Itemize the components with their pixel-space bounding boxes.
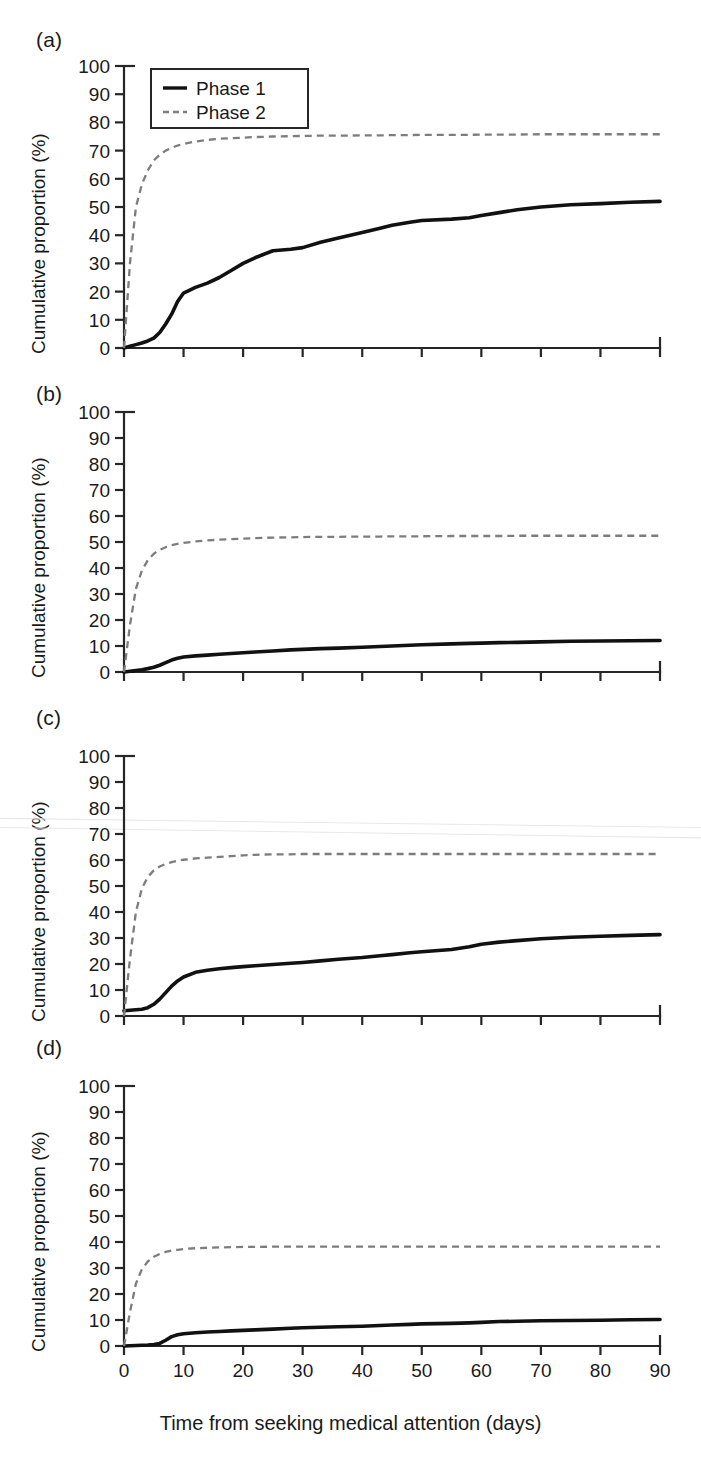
series-line-phase-2 <box>124 854 660 1016</box>
y-tick-label: 80 <box>89 454 110 475</box>
y-tick-label: 30 <box>89 253 110 274</box>
y-tick-label: 90 <box>89 84 110 105</box>
y-tick-label: 50 <box>89 532 110 553</box>
y-tick-label: 20 <box>89 954 110 975</box>
x-tick-label: 40 <box>352 1360 373 1381</box>
x-tick-label: 80 <box>590 1360 611 1381</box>
plot-panel-b: 0102030405060708090100 <box>0 388 701 758</box>
y-tick-label: 20 <box>89 282 110 303</box>
y-tick-label: 100 <box>78 56 110 77</box>
x-tick-label: 30 <box>292 1360 313 1381</box>
y-tick-label: 50 <box>89 876 110 897</box>
y-tick-label: 80 <box>89 798 110 819</box>
y-tick-label: 90 <box>89 772 110 793</box>
x-tick-label: 0 <box>119 1360 130 1381</box>
y-tick-label: 40 <box>89 225 110 246</box>
y-tick-label: 0 <box>99 662 110 683</box>
y-tick-label: 70 <box>89 1154 110 1175</box>
y-tick-label: 20 <box>89 610 110 631</box>
plot-panel-d: 0102030405060708090100010203040506070809… <box>0 1062 701 1432</box>
x-tick-label: 70 <box>530 1360 551 1381</box>
axis-spines <box>124 412 660 672</box>
y-tick-label: 70 <box>89 824 110 845</box>
plot-panel-c: 0102030405060708090100 <box>0 732 701 1102</box>
y-tick-label: 10 <box>89 980 110 1001</box>
plot-panel-a: 0102030405060708090100Phase 1Phase 2 <box>0 42 701 412</box>
y-tick-label: 0 <box>99 338 110 359</box>
y-tick-label: 20 <box>89 1284 110 1305</box>
legend-label-phase-2: Phase 2 <box>196 102 266 123</box>
y-tick-label: 50 <box>89 1206 110 1227</box>
y-tick-label: 30 <box>89 928 110 949</box>
x-tick-label: 90 <box>649 1360 670 1381</box>
panel-tag-d: (d) <box>36 1036 62 1060</box>
x-tick-label: 20 <box>233 1360 254 1381</box>
y-tick-label: 70 <box>89 480 110 501</box>
legend-label-phase-1: Phase 1 <box>196 78 266 99</box>
x-tick-label: 10 <box>173 1360 194 1381</box>
y-tick-label: 60 <box>89 1180 110 1201</box>
y-tick-label: 0 <box>99 1006 110 1027</box>
series-line-phase-1 <box>124 1319 660 1346</box>
figure-root: (a)Cumulative proportion (%)010203040506… <box>0 0 701 1462</box>
y-tick-label: 100 <box>78 402 110 423</box>
series-line-phase-1 <box>124 201 660 348</box>
series-line-phase-1 <box>124 641 660 672</box>
y-tick-label: 10 <box>89 310 110 331</box>
axis-spines <box>124 756 660 1016</box>
axis-spines <box>124 1086 660 1346</box>
x-axis-label: Time from seeking medical attention (day… <box>0 1412 701 1435</box>
series-line-phase-2 <box>124 536 660 672</box>
x-tick-label: 60 <box>471 1360 492 1381</box>
y-tick-label: 90 <box>89 1102 110 1123</box>
series-line-phase-1 <box>124 935 660 1011</box>
y-tick-label: 100 <box>78 746 110 767</box>
y-tick-label: 50 <box>89 197 110 218</box>
y-tick-label: 60 <box>89 850 110 871</box>
y-tick-label: 80 <box>89 112 110 133</box>
x-tick-label: 50 <box>411 1360 432 1381</box>
y-tick-label: 40 <box>89 1232 110 1253</box>
y-tick-label: 10 <box>89 1310 110 1331</box>
y-tick-label: 60 <box>89 169 110 190</box>
y-tick-label: 60 <box>89 506 110 527</box>
y-tick-label: 10 <box>89 636 110 657</box>
y-tick-label: 40 <box>89 558 110 579</box>
y-tick-label: 100 <box>78 1076 110 1097</box>
y-tick-label: 30 <box>89 584 110 605</box>
panel-tag-c: (c) <box>36 706 61 730</box>
y-tick-label: 90 <box>89 428 110 449</box>
y-tick-label: 40 <box>89 902 110 923</box>
y-tick-label: 70 <box>89 141 110 162</box>
y-tick-label: 80 <box>89 1128 110 1149</box>
y-tick-label: 0 <box>99 1336 110 1357</box>
y-tick-label: 30 <box>89 1258 110 1279</box>
series-line-phase-2 <box>124 134 660 348</box>
